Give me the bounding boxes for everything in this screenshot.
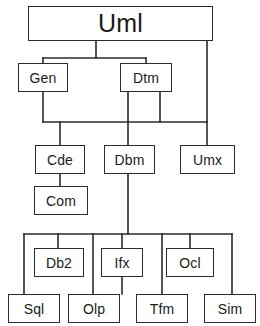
node-box-dtm[interactable]: Dtm bbox=[120, 63, 172, 92]
node-label-olp: Olp bbox=[83, 302, 105, 316]
node-label-tfm: Tfm bbox=[150, 302, 174, 316]
node-box-db2[interactable]: Db2 bbox=[34, 248, 84, 277]
node-box-umx[interactable]: Umx bbox=[180, 145, 235, 174]
node-label-dtm: Dtm bbox=[133, 71, 159, 85]
node-box-cde[interactable]: Cde bbox=[35, 145, 85, 174]
uml-package-diagram: UmlGenDtmCdeDbmUmxComDb2IfxOclSqlOlpTfmS… bbox=[0, 0, 260, 326]
node-box-sql[interactable]: Sql bbox=[8, 294, 60, 323]
node-box-sim[interactable]: Sim bbox=[204, 294, 256, 323]
node-box-tfm[interactable]: Tfm bbox=[136, 294, 188, 323]
node-box-ifx[interactable]: Ifx bbox=[101, 248, 143, 277]
node-box-uml[interactable]: Uml bbox=[28, 6, 213, 41]
node-label-sim: Sim bbox=[218, 302, 242, 316]
node-label-dbm: Dbm bbox=[115, 153, 145, 167]
node-label-umx: Umx bbox=[193, 153, 222, 167]
node-label-uml: Uml bbox=[98, 11, 143, 36]
node-box-dbm[interactable]: Dbm bbox=[104, 145, 155, 174]
node-label-com: Com bbox=[46, 194, 76, 208]
node-label-ifx: Ifx bbox=[114, 256, 129, 270]
node-box-gen[interactable]: Gen bbox=[18, 63, 68, 92]
node-label-ocl: Ocl bbox=[179, 256, 200, 270]
node-label-db2: Db2 bbox=[46, 256, 72, 270]
node-box-olp[interactable]: Olp bbox=[68, 294, 120, 323]
node-box-com[interactable]: Com bbox=[34, 186, 88, 215]
node-label-gen: Gen bbox=[30, 71, 57, 85]
node-label-sql: Sql bbox=[24, 302, 45, 316]
node-label-cde: Cde bbox=[47, 153, 73, 167]
node-box-ocl[interactable]: Ocl bbox=[166, 248, 214, 277]
